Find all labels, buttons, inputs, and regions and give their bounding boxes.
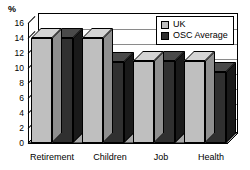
legend-item-uk: UK (161, 19, 228, 30)
bar-side (154, 51, 164, 143)
bar-health-uk (184, 61, 205, 143)
x-tick-label-children: Children (93, 152, 127, 162)
bar-children-uk (82, 38, 103, 143)
y-tick-label-4: 4 (19, 108, 24, 118)
x-axis (28, 143, 228, 144)
bar-front (31, 38, 52, 143)
y-tick-label-2: 2 (19, 123, 24, 133)
chart-legend: UK OSC Average (156, 16, 234, 45)
legend-label-osc-average: OSC Average (173, 30, 228, 41)
y-tick-label-0: 0 (19, 138, 24, 148)
bar-front (133, 61, 154, 143)
y-tick-label-12: 12 (15, 48, 24, 58)
y-tick-label-16: 16 (15, 18, 24, 28)
y-tick-label-6: 6 (19, 93, 24, 103)
bar-side (226, 62, 236, 143)
x-axis-labels: Retirement Children Job Health (0, 152, 250, 166)
x-tick-label-retirement: Retirement (30, 152, 74, 162)
bar-side (205, 51, 215, 143)
bar-side (52, 28, 62, 143)
bar-front (184, 61, 205, 143)
legend-item-osc-average: OSC Average (161, 30, 228, 41)
x-tick-label-job: Job (154, 152, 169, 162)
y-axis-labels: 0 2 4 6 8 10 12 14 16 (0, 0, 26, 170)
bar-chart: % 0 2 4 6 (0, 0, 250, 170)
legend-swatch-uk (161, 21, 169, 29)
legend-swatch-osc-average (161, 32, 169, 40)
bar-side (103, 28, 113, 143)
y-tick-label-10: 10 (15, 63, 24, 73)
bar-job-uk (133, 61, 154, 143)
y-tick-label-8: 8 (19, 78, 24, 88)
y-tick-label-14: 14 (15, 33, 24, 43)
legend-label-uk: UK (173, 19, 186, 30)
x-tick-label-health: Health (198, 152, 224, 162)
bar-front (82, 38, 103, 143)
plot-area: 0 2 4 6 8 10 12 14 16 (0, 0, 250, 170)
bar-retirement-uk (31, 38, 52, 143)
